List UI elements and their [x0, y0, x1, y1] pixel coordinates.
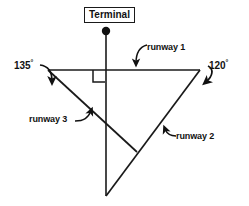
angle-right-degree-symbol: ° [225, 59, 228, 66]
angle-left-value: 135 [14, 60, 30, 71]
angle-right-label: 120° [209, 60, 228, 71]
runway-3-label: runway 3 [29, 114, 67, 125]
terminal-point-dot [102, 27, 110, 35]
runway-diagram-figure: Terminal runway 1 runway 2 runway 3 135°… [0, 0, 249, 206]
runway-1-label: runway 1 [147, 42, 185, 53]
runway-1-leader-icon [136, 45, 147, 63]
angle-left-arrow-icon [40, 65, 52, 81]
runway-2-leader-icon [165, 129, 176, 136]
runway-2-label: runway 2 [176, 131, 214, 142]
terminal-label-box: Terminal [84, 7, 135, 23]
angle-right-value: 120 [209, 60, 225, 71]
angle-left-degree-symbol: ° [30, 59, 33, 66]
runway-3-leader-icon [75, 111, 91, 121]
diagram-canvas [0, 0, 249, 206]
angle-left-label: 135° [14, 60, 33, 71]
right-angle-marker-icon [93, 70, 105, 82]
